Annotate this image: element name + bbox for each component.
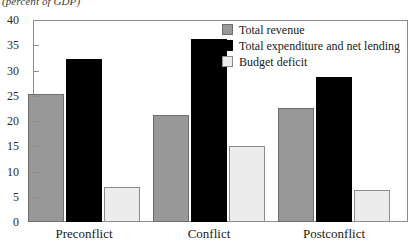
legend-label: Total expenditure and net lending (239, 40, 400, 52)
y-tick-label-30: 30 (7, 63, 19, 78)
y-tick-label-15: 15 (7, 139, 19, 154)
x-category-label-conflict: Conflict (188, 226, 231, 242)
y-tick-mark-30 (33, 71, 39, 72)
y-tick-mark-15 (33, 146, 39, 147)
bar-preconflict-revenue[interactable] (28, 94, 64, 222)
legend-swatch-deficit-icon (222, 56, 233, 67)
x-category-label-preconflict: Preconflict (55, 226, 112, 242)
legend-label: Budget deficit (239, 56, 307, 68)
y-tick-label-5: 5 (13, 189, 19, 204)
legend-label: Total revenue (239, 24, 304, 36)
y-tick-mark-10 (33, 172, 39, 173)
y-tick-label-35: 35 (7, 38, 19, 53)
legend-item-deficit[interactable]: Budget deficit (222, 55, 400, 68)
legend-item-expenditure[interactable]: Total expenditure and net lending (222, 39, 400, 52)
x-category-label-postconflict: Postconflict (303, 226, 365, 242)
legend-swatch-expenditure-icon (222, 40, 233, 51)
y-tick-mark-20 (33, 121, 39, 122)
legend-item-revenue[interactable]: Total revenue (222, 23, 400, 36)
y-tick-label-10: 10 (7, 164, 19, 179)
y-tick-mark-35 (33, 45, 39, 46)
chart-legend: Total revenueTotal expenditure and net l… (222, 23, 400, 68)
y-tick-label-40: 40 (7, 13, 19, 28)
bar-postconflict-deficit[interactable] (354, 190, 390, 222)
bar-postconflict-expenditure[interactable] (316, 77, 352, 222)
bar-preconflict-deficit[interactable] (104, 187, 140, 222)
bar-postconflict-revenue[interactable] (278, 108, 314, 222)
y-tick-label-20: 20 (7, 114, 19, 129)
y-tick-mark-5 (33, 197, 39, 198)
bar-conflict-deficit[interactable] (229, 146, 265, 222)
legend-swatch-revenue-icon (222, 24, 233, 35)
y-tick-mark-25 (33, 96, 39, 97)
y-tick-label-0: 0 (13, 215, 19, 230)
bar-preconflict-expenditure[interactable] (66, 59, 102, 222)
y-tick-label-25: 25 (7, 88, 19, 103)
bar-conflict-revenue[interactable] (153, 115, 189, 222)
